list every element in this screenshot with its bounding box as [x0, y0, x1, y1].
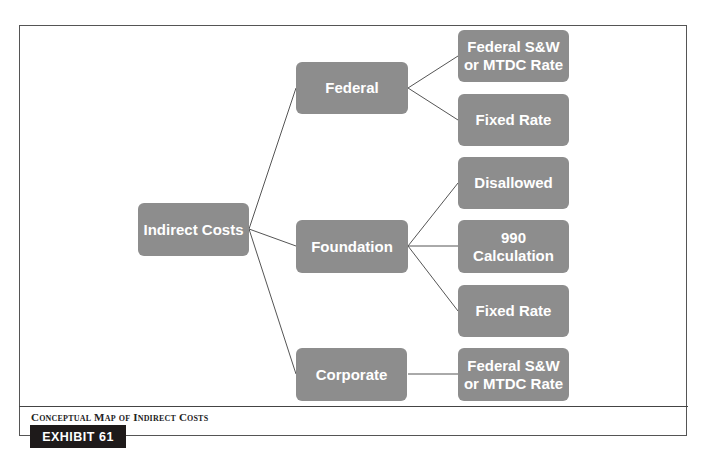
node-indirect-costs: Indirect Costs [138, 203, 249, 256]
node-foundation-fixed-rate: Fixed Rate [458, 285, 569, 337]
node-foundation-990-calculation: 990 Calculation [458, 220, 569, 273]
exhibit-caption: Conceptual Map of Indirect Costs [31, 411, 208, 423]
node-corporate: Corporate [296, 348, 407, 401]
node-foundation: Foundation [296, 220, 408, 273]
exhibit-badge: EXHIBIT 61 [30, 425, 126, 448]
node-federal: Federal [296, 62, 408, 114]
node-federal-sw-mtdc-rate: Federal S&W or MTDC Rate [458, 30, 569, 82]
node-foundation-disallowed: Disallowed [458, 157, 569, 209]
node-corporate-sw-mtdc-rate: Federal S&W or MTDC Rate [458, 348, 569, 401]
node-federal-fixed-rate: Fixed Rate [458, 94, 569, 146]
